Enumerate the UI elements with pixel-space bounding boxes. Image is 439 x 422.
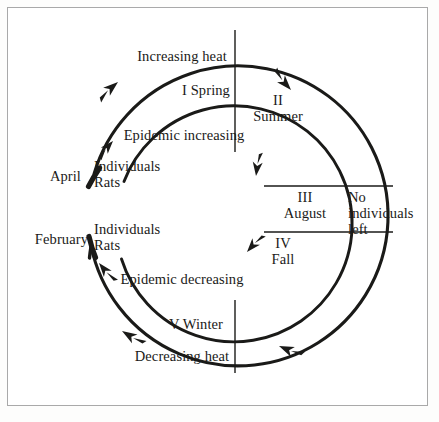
label-april-rats: Rats: [94, 174, 120, 191]
label-february-rats: Rats: [94, 237, 120, 254]
label-sector-spring: I Spring: [182, 82, 230, 99]
outer-arc-epidemic-curve: [91, 66, 388, 366]
label-sector-fall-name: Fall: [272, 251, 295, 268]
label-sector-august-numeral: III: [298, 189, 313, 206]
label-sector-fall-numeral: IV: [275, 235, 291, 252]
label-epidemic-increasing: Epidemic increasing: [124, 127, 245, 144]
label-month-april: April: [50, 168, 81, 185]
label-epidemic-decreasing: Epidemic decreasing: [120, 271, 243, 288]
arrow-spring-outer: [95, 78, 122, 103]
label-no-individuals-left-line2: individuals: [348, 205, 414, 222]
label-sector-summer-name: Summer: [253, 108, 303, 125]
label-increasing-heat: Increasing heat: [137, 48, 227, 65]
label-april-individuals: Individuals: [94, 158, 160, 175]
label-month-february: February: [35, 231, 88, 248]
arrow-fall-inner: [243, 231, 266, 256]
figure-page: Increasing heat I Spring II Summer Epide…: [0, 0, 439, 422]
label-no-individuals-left-line1: No: [348, 189, 366, 206]
arrow-summer-inner: [251, 152, 264, 177]
label-sector-august-name: August: [284, 205, 327, 222]
label-sector-summer-numeral: II: [273, 92, 283, 109]
label-decreasing-heat: Decreasing heat: [135, 348, 230, 365]
label-february-individuals: Individuals: [94, 221, 160, 238]
label-sector-winter: V Winter: [169, 316, 223, 333]
label-no-individuals-left-line3: left: [348, 221, 368, 238]
